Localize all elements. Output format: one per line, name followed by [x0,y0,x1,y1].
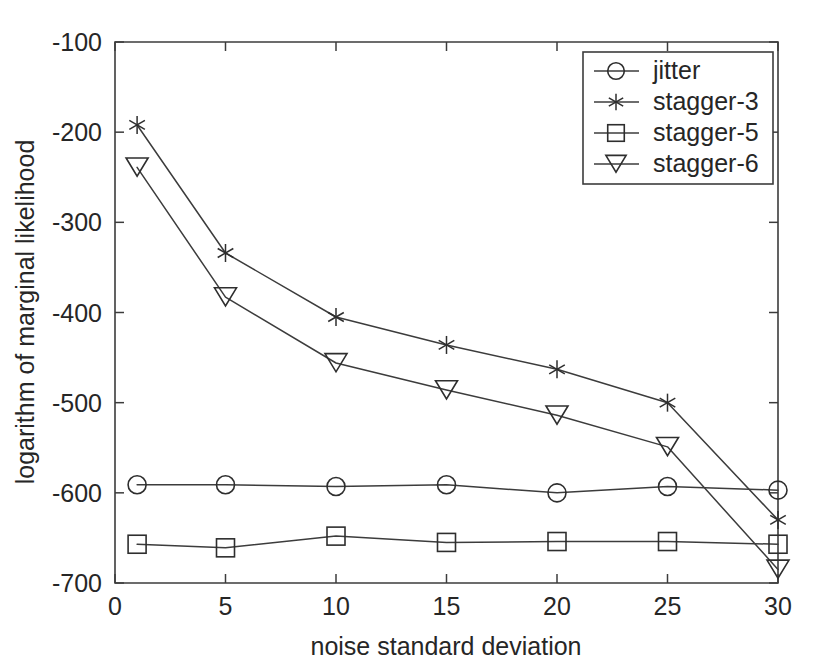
x-tick-label: 0 [108,592,122,620]
x-tick-label: 30 [764,592,792,620]
series-line-stagger-6 [137,167,778,569]
legend-label: jitter [652,56,700,84]
x-tick-label: 5 [219,592,233,620]
legend-label: stagger-6 [653,149,759,177]
x-tick-label: 25 [654,592,682,620]
y-tick-label: -200 [52,118,102,146]
legend-label: stagger-3 [653,87,759,115]
x-tick-label: 20 [543,592,571,620]
series-line-stagger-5 [137,536,778,548]
marker-star [439,336,455,354]
y-tick-label: -100 [52,28,102,56]
marker-star [218,244,234,262]
y-tick-label: -400 [52,299,102,327]
chart-canvas: -700-600-500-400-300-200-100 05101520253… [0,0,826,668]
series-jitter [128,476,787,502]
marker-star [328,308,344,326]
chart-figure: -700-600-500-400-300-200-100 05101520253… [0,0,826,668]
x-tick-label: 10 [322,592,350,620]
y-axis-title: logarithm of marginal likelihood [11,140,39,485]
marker-star [129,116,145,134]
x-tick-label: 15 [433,592,461,620]
series-stagger-6 [126,158,789,578]
data-series-group [126,116,789,578]
y-tick-label: -700 [52,569,102,597]
y-tick-label: -600 [52,479,102,507]
series-stagger-5 [128,527,787,557]
legend-label: stagger-5 [653,118,759,146]
x-axis-title: noise standard deviation [310,632,581,660]
y-tick-label: -500 [52,389,102,417]
chart-legend[interactable]: jitterstagger-3stagger-5stagger-6 [583,52,773,184]
y-tick-label: -300 [52,208,102,236]
marker-star [549,360,565,378]
